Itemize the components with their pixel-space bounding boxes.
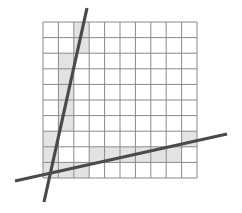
shaded-cell — [58, 53, 73, 69]
grid-diagram — [0, 0, 242, 213]
shaded-cell — [166, 147, 181, 163]
line-rasterization-figure — [0, 0, 242, 213]
